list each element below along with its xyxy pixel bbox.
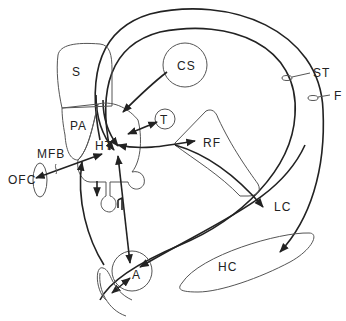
- ht-rf-arrow: [118, 141, 195, 148]
- region-ht: [78, 103, 145, 212]
- label-rf: RF: [203, 136, 221, 150]
- ht-a-arrow: [118, 156, 130, 263]
- label-hc: HC: [218, 260, 237, 274]
- left-tract: [80, 162, 104, 265]
- label-a: A: [132, 268, 141, 282]
- label-st: ST: [313, 66, 330, 80]
- cs-to-ht-arrow: [123, 72, 167, 112]
- label-cs: CS: [177, 59, 196, 73]
- label-f: F: [334, 89, 342, 103]
- label-pa: PA: [70, 119, 87, 133]
- region-hc: [180, 233, 314, 292]
- st-leader: [292, 73, 310, 77]
- label-ht: HT: [95, 139, 113, 153]
- label-mfb: MFB: [37, 147, 65, 161]
- label-lc: LC: [274, 200, 291, 214]
- region-rf: [175, 110, 259, 196]
- f-marker: [308, 96, 318, 101]
- label-ofc: OFC: [8, 173, 36, 187]
- label-t: T: [160, 113, 168, 127]
- label-s: S: [72, 65, 81, 79]
- ht-t-arrow: [128, 122, 157, 134]
- brain-connectivity-diagram: S PA HT CS T RF ST F MFB OFC LC A HC: [0, 0, 346, 321]
- st-marker: [282, 76, 292, 81]
- fornix-tract: [95, 9, 323, 252]
- mfb-marker: [55, 164, 56, 174]
- f-leader: [318, 95, 330, 97]
- p-marker: [118, 198, 122, 210]
- hook-structure-2: [100, 273, 126, 316]
